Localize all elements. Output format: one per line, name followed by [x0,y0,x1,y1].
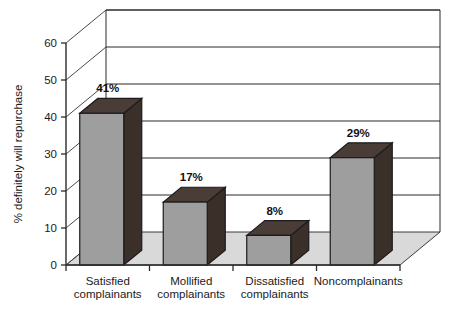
y-tick-label: 0 [51,259,57,271]
y-axis-title: % definitely will repurchase [12,85,24,224]
y-tick-label: 20 [44,185,57,197]
bar-side-face [124,98,142,265]
bar-front-face [330,158,374,265]
bar-value-label: 29% [347,127,370,139]
x-axis-labels: SatisfiedcomplainantsMollifiedcomplainan… [74,275,403,300]
category-label: Mollified [170,275,212,287]
y-tick-label: 40 [44,111,57,123]
y-tick-label: 10 [44,222,57,234]
bar-3[interactable] [330,143,392,265]
y-tick-label: 30 [44,148,57,160]
category-label: Dissatisfied [245,275,304,287]
bar-side-face [374,143,392,265]
bar-2[interactable] [247,221,309,265]
bar-front-face [247,235,291,265]
bar-value-label: 8% [266,205,283,217]
y-tick-label: 60 [44,37,57,49]
category-label: Noncomplainants [314,275,403,287]
bar-front-face [163,202,207,265]
bar-value-label: 41% [96,82,119,94]
y-axis-ticks [61,43,66,265]
category-label-line2: complainants [157,288,225,300]
bar-value-label: 17% [180,171,203,183]
y-tick-label: 50 [44,74,57,86]
bar-chart: 41%17%8%29%0102030405060Satisfiedcomplai… [0,0,456,316]
category-label: Satisfied [86,275,130,287]
category-label-line2: complainants [74,288,142,300]
category-label-line2: complainants [241,288,309,300]
x-axis-ticks [66,265,400,271]
bar-1[interactable] [163,187,225,265]
bar-0[interactable] [80,98,142,265]
chart-canvas: 41%17%8%29%0102030405060Satisfiedcomplai… [0,0,456,316]
bar-front-face [80,113,124,265]
